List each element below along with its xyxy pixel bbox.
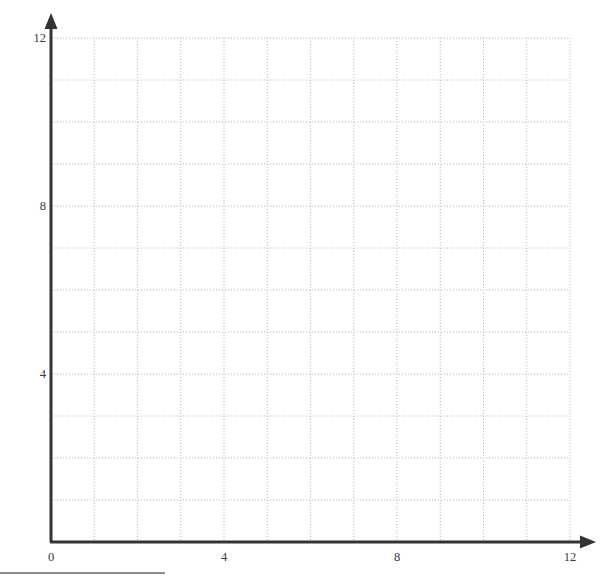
- y-axis-tick-label: 4: [40, 368, 46, 381]
- bottom-divider-rule: [0, 572, 165, 574]
- x-axis-tick-label: 8: [394, 551, 400, 564]
- x-axis-tick-label: 4: [221, 551, 227, 564]
- y-axis-tick-label: 12: [34, 32, 47, 45]
- x-axis-tick-label: 12: [564, 551, 577, 564]
- x-axis-tick-label: 0: [48, 551, 54, 564]
- coordinate-grid-figure: [0, 0, 613, 587]
- figure-background: [0, 0, 613, 587]
- y-axis-tick-label: 8: [40, 200, 46, 213]
